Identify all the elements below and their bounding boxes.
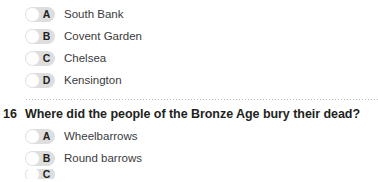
quiz-page: A South Bank B Covent Garden C Chelsea D… <box>0 0 378 182</box>
option-letter: A <box>40 129 53 144</box>
option-letter: C <box>40 51 53 66</box>
option-label: Chelsea <box>64 51 106 66</box>
radio-knob-icon <box>26 8 39 21</box>
option-letter: B <box>40 29 53 44</box>
radio-knob-icon <box>26 30 39 43</box>
question-text: Where did the people of the Bronze Age b… <box>25 107 360 121</box>
question-heading: 16 Where did the people of the Bronze Ag… <box>0 107 378 121</box>
radio-knob-icon <box>26 169 39 179</box>
radio-toggle-icon[interactable]: C <box>25 51 55 66</box>
radio-toggle-icon[interactable]: A <box>25 7 55 22</box>
radio-toggle-icon[interactable]: B <box>25 29 55 44</box>
option-label: Kensington <box>64 73 122 88</box>
radio-knob-icon <box>26 152 39 165</box>
option-row[interactable]: A South Bank <box>0 3 378 25</box>
option-row[interactable]: C Chelsea <box>0 47 378 69</box>
option-letter: D <box>40 73 53 88</box>
option-label: Wheelbarrows <box>64 129 138 144</box>
option-row[interactable]: C <box>0 169 378 179</box>
current-question-option-list: A Wheelbarrows B Round barrows C <box>0 125 378 179</box>
spacer-before-divider <box>0 91 378 98</box>
option-row[interactable]: D Kensington <box>0 69 378 91</box>
option-letter: C <box>40 169 53 179</box>
option-row[interactable]: A Wheelbarrows <box>0 125 378 147</box>
option-label: South Bank <box>64 7 123 22</box>
option-row[interactable]: B Round barrows <box>0 147 378 169</box>
radio-knob-icon <box>26 74 39 87</box>
radio-toggle-icon[interactable]: B <box>25 151 55 166</box>
radio-toggle-icon[interactable]: C <box>25 169 55 179</box>
option-letter: B <box>40 151 53 166</box>
question-number: 16 <box>3 107 25 121</box>
option-label: Covent Garden <box>64 29 142 44</box>
option-label: Round barrows <box>64 151 142 166</box>
radio-toggle-icon[interactable]: D <box>25 73 55 88</box>
radio-toggle-icon[interactable]: A <box>25 129 55 144</box>
option-row[interactable]: B Covent Garden <box>0 25 378 47</box>
option-letter: A <box>40 7 53 22</box>
radio-knob-icon <box>26 130 39 143</box>
previous-question-option-list: A South Bank B Covent Garden C Chelsea D… <box>0 3 378 91</box>
radio-knob-icon <box>26 52 39 65</box>
